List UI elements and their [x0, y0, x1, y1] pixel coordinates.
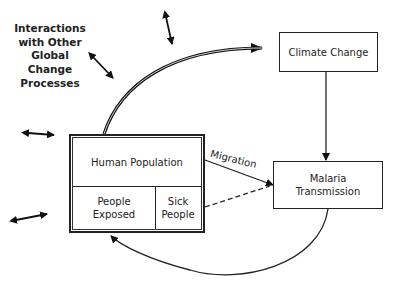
double-arrow-icon	[166, 17, 172, 44]
node-label: Transmission	[296, 185, 361, 198]
edge-sick-to-malaria	[205, 186, 270, 207]
title-line: Interactions	[10, 22, 90, 36]
node-label: Sick	[161, 195, 194, 208]
human-population-label: Human Population	[73, 138, 201, 187]
diagram-canvas: Interactions with Other Global Change Pr…	[0, 0, 396, 285]
node-sick-people: Sick People	[155, 186, 201, 229]
node-label: People	[161, 208, 194, 221]
human-population-inner: Human Population People Exposed Sick Peo…	[72, 137, 202, 230]
node-label: Climate Change	[289, 46, 369, 59]
double-arrow-icon	[16, 214, 47, 220]
node-label: Exposed	[93, 208, 135, 221]
node-label: People	[93, 195, 135, 208]
node-climate-change: Climate Change	[279, 32, 378, 72]
node-malaria-transmission: Malaria Transmission	[273, 161, 383, 209]
node-label: Malaria	[296, 172, 361, 185]
interactions-title: Interactions with Other Global Change Pr…	[10, 22, 90, 90]
title-line: Processes	[10, 77, 90, 91]
double-arrow-icon	[93, 57, 113, 78]
node-people-exposed: People Exposed	[73, 186, 156, 229]
node-human-population: Human Population People Exposed Sick Peo…	[69, 134, 205, 233]
double-arrow-icon	[28, 133, 54, 135]
title-line: with Other	[10, 36, 90, 50]
title-line: Global	[10, 49, 90, 63]
edge-population-to-climate	[104, 48, 262, 134]
title-line: Change	[10, 63, 90, 77]
